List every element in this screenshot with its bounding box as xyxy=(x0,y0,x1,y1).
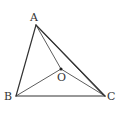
triangle-diagram: A B C O xyxy=(0,0,124,121)
segment-ac-inner xyxy=(38,27,103,95)
label-o: O xyxy=(57,71,66,84)
label-a: A xyxy=(29,11,39,24)
label-b: B xyxy=(4,90,12,103)
label-c: C xyxy=(107,90,115,103)
